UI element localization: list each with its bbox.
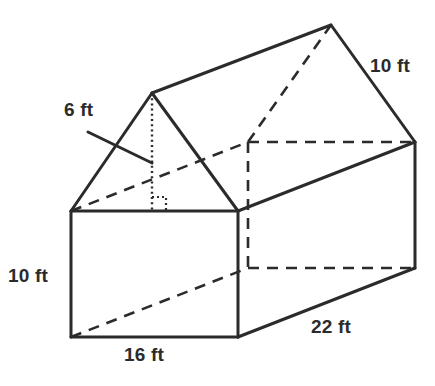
hidden-left-roof-slope-edge — [71, 142, 248, 211]
visible-edges-group — [71, 25, 415, 337]
six-ft-leader-line — [88, 132, 152, 163]
rear-gable-right-slope — [331, 25, 415, 142]
front-gable-right-slope — [152, 93, 238, 211]
label-roof-height: 6 ft — [64, 100, 93, 119]
geometry-diagram: 6 ft 10 ft 10 ft 16 ft 22 ft — [0, 0, 435, 386]
roof-right-slope-edge — [238, 142, 415, 211]
right-angle-marker — [152, 197, 166, 211]
label-base-depth: 22 ft — [311, 317, 351, 336]
label-base-width: 16 ft — [124, 345, 164, 364]
hidden-floor-diagonal-left — [71, 268, 248, 337]
roof-ridge — [152, 25, 331, 93]
label-roof-slant: 10 ft — [370, 56, 410, 75]
hidden-rear-gable-left-slope — [248, 25, 331, 142]
label-wall-height: 10 ft — [8, 266, 48, 285]
